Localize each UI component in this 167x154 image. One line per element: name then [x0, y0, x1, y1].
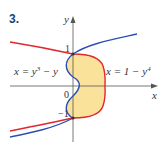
blue-curve-equation: x = y3 − y [13, 65, 58, 77]
tick-label-neg1: −1 [58, 108, 69, 119]
intersection-bottom [71, 116, 74, 119]
problem-number: 3. [9, 12, 19, 26]
red-curve-equation: x = 1 − y4 [105, 65, 151, 77]
x-axis-label: x [151, 89, 157, 101]
blue-curve [10, 34, 137, 137]
x-axis-arrow-icon [151, 84, 158, 89]
origin-label: 0 [64, 89, 69, 100]
y-axis-arrow-icon [71, 16, 76, 23]
graph: y x 1 0 −1 x = y3 − y x = 1 − y4 [0, 0, 167, 154]
tick-label-1: 1 [65, 43, 70, 54]
y-axis-label: y [63, 13, 69, 25]
figure: 3. y x 1 0 −1 x = y3 − y x = 1 − y4 [0, 0, 167, 154]
intersection-top [71, 52, 74, 55]
